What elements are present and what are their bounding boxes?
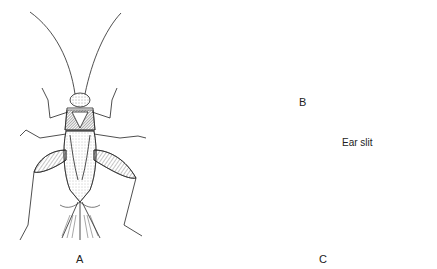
cricket-anatomy-figure: Ear slit A B C bbox=[0, 0, 437, 269]
illustration-canvas bbox=[0, 0, 437, 269]
panel-label-c: C bbox=[319, 254, 327, 265]
panel-label-b: B bbox=[299, 97, 306, 108]
cricket-dorsal-drawing bbox=[20, 12, 146, 240]
panel-label-a: A bbox=[76, 254, 83, 265]
ear-slit-label: Ear slit bbox=[342, 138, 373, 148]
